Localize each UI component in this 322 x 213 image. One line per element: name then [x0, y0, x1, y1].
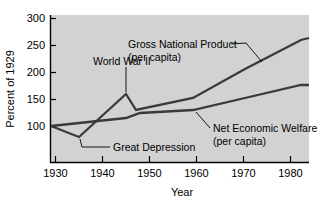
y-axis-title: Percent of 1929 [4, 50, 16, 128]
line-chart: 300 250 200 150 100 1930 1940 1950 1960 … [0, 0, 322, 213]
y-tick-label-250: 250 [27, 39, 45, 51]
y-tick-label-200: 200 [27, 66, 45, 78]
annotation-new-line2: (per capita) [213, 135, 266, 147]
annotation-wwii: World War II [93, 55, 151, 67]
x-tick-label-1930: 1930 [43, 167, 67, 179]
x-tick-label-1950: 1950 [137, 167, 161, 179]
annotation-new-line1: Net Economic Welfare [213, 122, 317, 134]
y-tick-label-150: 150 [27, 93, 45, 105]
y-tick-label-100: 100 [27, 120, 45, 132]
x-tick-label-1970: 1970 [231, 167, 255, 179]
x-tick-label-1980: 1980 [278, 167, 302, 179]
x-tick-label-1960: 1960 [184, 167, 208, 179]
annotation-great-depression: Great Depression [113, 141, 195, 153]
y-tick-label-300: 300 [27, 12, 45, 24]
annotation-gnp-line1: Gross National Product [128, 38, 237, 50]
x-axis-title: Year [171, 186, 194, 198]
x-tick-label-1940: 1940 [90, 167, 114, 179]
chart-figure: 300 250 200 150 100 1930 1940 1950 1960 … [0, 0, 322, 213]
